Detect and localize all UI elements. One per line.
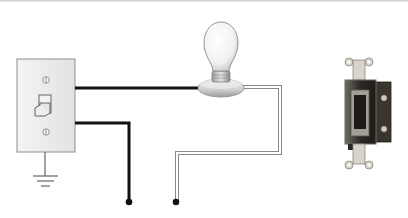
wire-black-supply	[75, 123, 129, 201]
terminal-2-dot	[173, 199, 180, 206]
bulb-glass	[204, 22, 238, 71]
wiring-diagram	[0, 0, 408, 218]
screw-bottom-icon	[43, 129, 49, 135]
terminal-1-dot	[126, 199, 133, 206]
ground-icon	[33, 152, 58, 186]
light-bulb	[198, 22, 244, 97]
bulb-screw-neck	[212, 71, 230, 82]
screw-top-icon	[43, 77, 49, 83]
switch-device	[345, 58, 391, 169]
wall-switch	[17, 59, 75, 152]
device-side-block	[374, 82, 391, 142]
device-toggle	[354, 95, 366, 129]
wire-white-neutral	[177, 87, 280, 201]
